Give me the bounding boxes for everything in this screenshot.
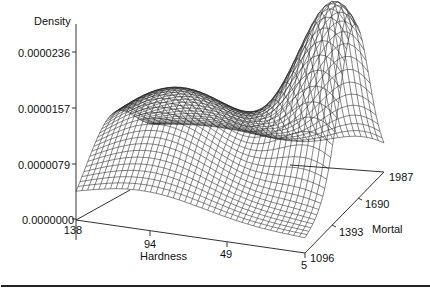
- z-tick-3: 0.0000236: [0, 47, 70, 59]
- x-tick-1: 94: [135, 238, 165, 250]
- y-tick-1: 1393: [339, 226, 363, 238]
- z-tick-2: 0.0000157: [0, 103, 70, 115]
- y-tick-0: 1096: [310, 252, 334, 264]
- z-axis-title: Density: [34, 15, 71, 27]
- y-axis-title: Mortal: [372, 223, 403, 235]
- bottom-rule: [1, 285, 430, 287]
- x-axis-title: Hardness: [140, 250, 187, 262]
- y-tick-2: 1690: [365, 198, 389, 210]
- x-tick-0: 138: [58, 224, 88, 236]
- y-tick-3: 1987: [389, 171, 413, 183]
- x-tick-2: 49: [211, 248, 241, 260]
- axes: [72, 24, 384, 258]
- z-tick-1: 0.0000079: [0, 159, 70, 171]
- wireframe-surface: [76, 1, 384, 237]
